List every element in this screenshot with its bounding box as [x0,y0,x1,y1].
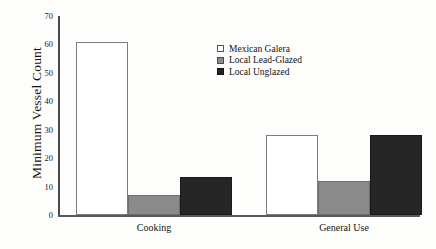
x-axis-group-label: Cooking [137,222,171,233]
legend-item: Local Lead-Glazed [217,55,302,66]
legend-item: Mexican Galera [217,43,302,54]
bar [128,195,180,215]
y-axis-title: Minimum Vessel Count [29,13,45,213]
y-axis-line [58,16,60,215]
legend-item: Local Unglazed [217,66,302,77]
bar [370,135,422,215]
bar [180,177,232,215]
legend-label: Local Unglazed [229,67,289,77]
y-tick-label: 50 [45,69,54,78]
chart-legend: Mexican GaleraLocal Lead-GlazedLocal Ung… [217,43,302,78]
bar [266,135,318,215]
y-tick-label: 0 [49,211,53,220]
bar [318,181,370,215]
legend-label: Local Lead-Glazed [229,55,302,65]
y-tick-label: 30 [45,125,54,134]
x-axis-line [58,215,420,217]
bar [76,42,128,215]
legend-swatch-icon [217,45,224,52]
y-tick-label: 40 [45,97,54,106]
y-tick-label: 60 [45,40,54,49]
legend-swatch-icon [217,68,224,75]
y-tick-label: 20 [45,154,54,163]
x-axis-group-label: General Use [319,222,369,233]
legend-swatch-icon [217,57,224,64]
legend-label: Mexican Galera [229,44,290,54]
bar-chart: Minimum Vessel Count 010203040506070 Coo… [0,0,436,249]
y-tick-label: 10 [45,182,54,191]
y-tick-label: 70 [45,12,54,21]
